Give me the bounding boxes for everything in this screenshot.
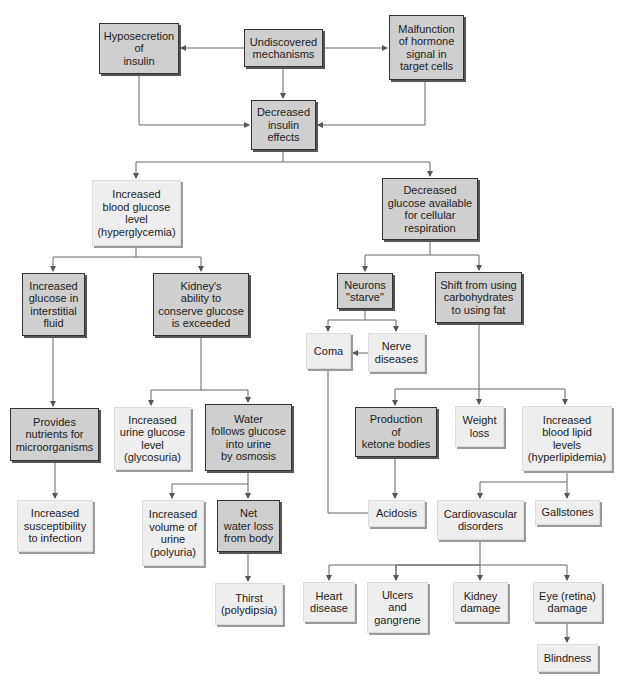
- node-kidney-ability-exceeded: Kidney's ability to conserve glucose is …: [153, 273, 249, 336]
- node-shift-to-fat: Shift from using carbohydrates to using …: [435, 272, 522, 323]
- node-label: Net water loss from body: [224, 507, 274, 545]
- node-label: Increased glucose in interstitial fluid: [29, 280, 79, 330]
- node-undiscovered-mechanisms: Undiscovered mechanisms: [244, 29, 323, 67]
- node-label: Increased susceptibility to infection: [24, 507, 86, 545]
- node-acidosis: Acidosis: [368, 500, 425, 527]
- node-decreased-glucose-available: Decreased glucose available for cellular…: [382, 178, 478, 240]
- node-label: Weight loss: [462, 414, 496, 439]
- node-nerve-diseases: Nerve diseases: [368, 333, 425, 372]
- node-hyposecretion: Hyposecretion of insulin: [99, 23, 179, 74]
- node-weight-loss: Weight loss: [455, 406, 504, 447]
- node-polyuria: Increased volume of urine (polyuria): [142, 500, 204, 566]
- node-kidney-damage: Kidney damage: [453, 582, 508, 622]
- node-coma: Coma: [306, 333, 351, 369]
- node-label: Kidney damage: [461, 590, 501, 615]
- node-net-water-loss: Net water loss from body: [217, 500, 280, 552]
- node-label: Gallstones: [542, 506, 594, 519]
- node-ketone-bodies: Production of ketone bodies: [355, 407, 437, 457]
- node-label: Cardiovascular disorders: [444, 508, 517, 533]
- node-label: Undiscovered mechanisms: [250, 36, 317, 61]
- node-label: Eye (retina) damage: [539, 590, 596, 615]
- node-label: Decreased glucose available for cellular…: [388, 184, 472, 234]
- node-label: Increased urine glucose level (glycosuri…: [120, 414, 185, 464]
- node-thirst-polydipsia: Thirst (polydipsia): [215, 583, 283, 625]
- node-heart-disease: Heart disease: [303, 582, 355, 622]
- node-label: Ulcers and gangrene: [374, 589, 421, 627]
- node-label: Nerve diseases: [375, 340, 418, 365]
- node-infection-susceptibility: Increased susceptibility to infection: [17, 500, 93, 552]
- node-label: Hyposecretion of insulin: [104, 30, 174, 68]
- node-label: Acidosis: [376, 507, 417, 520]
- node-label: Shift from using carbohydrates to using …: [440, 279, 516, 317]
- node-ulcers-gangrene: Ulcers and gangrene: [367, 582, 428, 633]
- node-eye-retina-damage: Eye (retina) damage: [533, 582, 602, 622]
- node-cardiovascular-disorders: Cardiovascular disorders: [437, 500, 524, 540]
- node-decreased-insulin-effects: Decreased insulin effects: [251, 100, 316, 150]
- node-nutrients-microorganisms: Provides nutrients for microorganisms: [10, 408, 99, 461]
- node-glucose-interstitial-fluid: Increased glucose in interstitial fluid: [22, 273, 85, 336]
- node-glycosuria: Increased urine glucose level (glycosuri…: [114, 407, 191, 470]
- node-label: Water follows glucose into urine by osmo…: [211, 413, 286, 463]
- node-label: Kidney's ability to conserve glucose is …: [158, 280, 244, 330]
- node-label: Heart disease: [310, 590, 348, 615]
- node-label: Increased volume of urine (polyuria): [149, 508, 197, 558]
- node-label: Provides nutrients for microorganisms: [16, 416, 94, 454]
- node-label: Coma: [314, 345, 343, 358]
- node-label: Decreased insulin effects: [257, 106, 310, 144]
- node-hyperlipidemia: Increased blood lipid levels (hyperlipid…: [522, 406, 612, 471]
- node-label: Neurons "starve": [344, 279, 386, 304]
- node-blindness: Blindness: [537, 644, 598, 672]
- node-label: Malfunction of hormone signal in target …: [398, 23, 454, 73]
- node-label: Blindness: [544, 652, 592, 665]
- node-label: Thirst (polydipsia): [221, 592, 277, 617]
- node-label: Production of ketone bodies: [362, 413, 431, 451]
- node-neurons-starve: Neurons "starve": [337, 273, 393, 309]
- node-water-follows-glucose: Water follows glucose into urine by osmo…: [205, 404, 292, 471]
- node-gallstones: Gallstones: [535, 500, 600, 525]
- node-label: Increased blood glucose level (hyperglyc…: [97, 188, 175, 238]
- node-malfunction-hormone-signal: Malfunction of hormone signal in target …: [389, 15, 464, 80]
- node-hyperglycemia: Increased blood glucose level (hyperglyc…: [92, 180, 181, 246]
- node-label: Increased blood lipid levels (hyperlipid…: [528, 414, 606, 464]
